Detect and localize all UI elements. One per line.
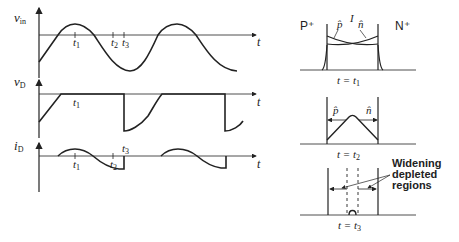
id-t1-marker: t1	[73, 158, 80, 172]
id-t2-marker: t2	[110, 158, 117, 172]
panel2-p-hat: p̂	[332, 104, 339, 116]
vin-t1-marker: t1	[73, 36, 80, 50]
id-t-label: t	[257, 157, 261, 171]
id-plot: iD t t1 t2 t3	[14, 138, 261, 192]
vin-label: vin	[14, 10, 26, 26]
id-label: iD	[14, 138, 24, 154]
profile-panel-t1: P⁺ N⁺ p̂ I n̂ t = t1	[300, 12, 416, 88]
p-region-label: P⁺	[300, 19, 314, 33]
p-hat-label: p̂	[336, 18, 343, 30]
panel1-caption: t = t1	[337, 74, 360, 88]
vin-t-label: t	[257, 35, 261, 49]
annotation-line3: regions	[392, 179, 432, 191]
id-waveform-cycle2	[161, 149, 226, 168]
current-label: I	[349, 12, 355, 24]
n-hat-label: n̂	[358, 18, 364, 30]
profile-panel-t2: p̂ n̂ t = t2	[300, 97, 416, 162]
diode-switching-diagram: vin t t1 t2 t3 vD t t1 iD t t1 t2 t3	[0, 0, 459, 242]
panel3-caption: t = t3	[338, 219, 361, 233]
vd-plot: vD t t1	[14, 74, 261, 138]
vd-waveform	[39, 94, 243, 131]
t2-profile	[327, 116, 378, 141]
vin-t3-marker: t3	[122, 36, 129, 50]
t3-residual-profile	[349, 211, 356, 216]
profile-panel-t3: Widening depleted regions t = t3	[300, 157, 441, 233]
n-region-label: N⁺	[395, 19, 410, 33]
vd-t1-marker: t1	[73, 96, 80, 110]
id-t3-marker: t3	[122, 142, 129, 156]
panel2-n-hat: n̂	[366, 104, 372, 116]
vin-plot: vin t t1 t2 t3	[14, 8, 261, 78]
vin-waveform	[39, 24, 237, 71]
vin-t2-marker: t2	[111, 36, 118, 50]
vd-label: vD	[14, 74, 26, 90]
vd-t-label: t	[257, 95, 261, 109]
panel2-caption: t = t2	[337, 148, 360, 162]
